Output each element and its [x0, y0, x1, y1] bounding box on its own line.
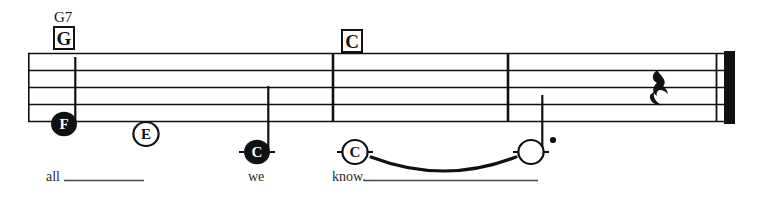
music-staff-sheet: G7 G C F E C C all we know. — [0, 0, 779, 198]
staff-lines — [28, 54, 735, 122]
note-c-we — [239, 86, 275, 164]
notation-vector-layer — [0, 0, 779, 198]
slur-arc — [371, 157, 516, 171]
lyric-all: all — [46, 170, 60, 184]
lyric-we: we — [248, 170, 264, 184]
note-c-know-head — [342, 140, 367, 164]
note-f — [51, 57, 77, 136]
chord-symbol-g7[interactable]: G7 G — [53, 10, 75, 50]
note-c-know — [337, 140, 373, 164]
final-barline-thick — [724, 51, 735, 124]
chord-box-label: G — [53, 26, 75, 50]
chord-symbol-c[interactable]: C — [341, 29, 363, 53]
note-e-head — [133, 122, 158, 146]
chord-extension-label: G7 — [54, 10, 75, 26]
augmentation-dot-icon — [550, 137, 556, 143]
note-final-head — [518, 140, 543, 164]
note-f-head — [51, 112, 77, 136]
chord-box-label: C — [341, 29, 363, 53]
note-e — [133, 122, 158, 146]
note-final-dotted-half — [513, 95, 556, 164]
lyric-know: know. — [332, 170, 366, 184]
note-c-we-head — [244, 140, 270, 164]
